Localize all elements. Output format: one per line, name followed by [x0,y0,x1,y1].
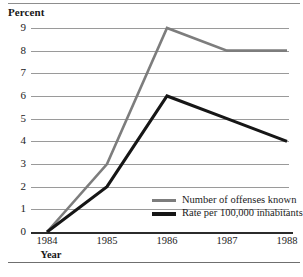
series-lines [0,0,303,277]
legend-swatch [152,212,176,216]
legend: Number of offenses knownRate per 100,000… [152,194,300,220]
legend-label: Number of offenses known [182,195,296,206]
chart-figure: Percent 9876543210 19841985198619871988 … [0,0,303,277]
legend-item: Number of offenses known [152,194,300,207]
legend-item: Rate per 100,000 inhabitants [152,207,300,220]
legend-label: Rate per 100,000 inhabitants [182,208,303,219]
plot-area: 9876543210 19841985198619871988 Year [0,0,303,277]
legend-swatch [152,199,176,203]
